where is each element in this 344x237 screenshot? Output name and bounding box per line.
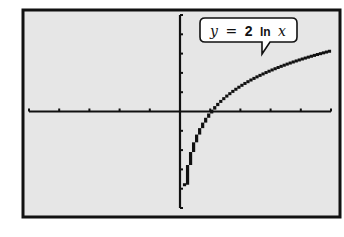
curve-pixel bbox=[183, 183, 186, 186]
curve-pixel bbox=[240, 84, 243, 87]
curve-pixel bbox=[213, 106, 216, 110]
curve-pixel bbox=[201, 123, 204, 129]
curve-pixel bbox=[322, 51, 325, 54]
curve-pixel bbox=[258, 74, 261, 77]
curve-pixel bbox=[313, 54, 316, 57]
curve-pixel bbox=[237, 86, 240, 89]
curve-pixel bbox=[274, 67, 277, 70]
curve-pixel bbox=[246, 80, 249, 83]
curve-pixel bbox=[316, 53, 319, 56]
curve-pixel bbox=[298, 58, 301, 61]
function-label: y = 2 ln x bbox=[209, 23, 286, 39]
curve-pixel bbox=[310, 55, 313, 58]
curve-pixel bbox=[216, 103, 219, 106]
curve-pixel bbox=[325, 51, 328, 54]
curve-pixel bbox=[295, 59, 298, 62]
curve-pixel bbox=[252, 77, 255, 80]
curve-pixel bbox=[222, 97, 225, 100]
curve-pixel bbox=[319, 52, 322, 55]
curve-pixel bbox=[255, 75, 258, 78]
curve-pixel bbox=[228, 92, 231, 95]
curve-pixel bbox=[210, 110, 213, 114]
curve-pixel bbox=[219, 100, 222, 103]
curve-pixel bbox=[186, 165, 189, 185]
curve-pixel bbox=[328, 50, 331, 53]
curve-pixel bbox=[289, 62, 292, 65]
curve-pixel bbox=[231, 90, 234, 93]
curve-pixel bbox=[234, 88, 237, 91]
curve-pixel bbox=[243, 82, 246, 85]
calculator-graph: y = 2 ln x bbox=[0, 0, 344, 237]
curve-pixel bbox=[264, 71, 267, 74]
curve-pixel bbox=[307, 56, 310, 59]
curve-pixel bbox=[277, 66, 280, 69]
curve-pixel bbox=[249, 79, 252, 82]
curve-pixel bbox=[267, 70, 270, 73]
curve-pixel bbox=[261, 72, 264, 75]
curve-pixel bbox=[204, 118, 207, 123]
curve-pixel bbox=[198, 128, 201, 134]
curve-pixel bbox=[292, 60, 295, 63]
curve-pixel bbox=[207, 113, 210, 117]
curve-pixel bbox=[192, 142, 195, 152]
curve-pixel bbox=[304, 57, 307, 60]
curve-pixel bbox=[286, 63, 289, 66]
curve-pixel bbox=[271, 68, 274, 71]
curve-pixel bbox=[195, 135, 198, 143]
curve-pixel bbox=[189, 152, 192, 165]
curve-pixel bbox=[225, 95, 228, 98]
curve-pixel bbox=[280, 65, 283, 68]
curve-pixel bbox=[301, 58, 304, 61]
curve-pixel bbox=[283, 64, 286, 67]
